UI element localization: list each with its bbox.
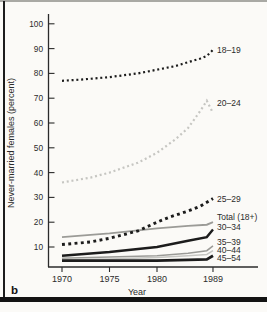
top-rule <box>0 0 267 2</box>
panel-label: b <box>11 284 18 296</box>
series-line-30-34 <box>62 230 213 256</box>
x-tick-label: 1970 <box>52 274 72 284</box>
series-label-20-24: 20–24 <box>217 98 241 108</box>
y-tick-label: 70 <box>34 93 44 103</box>
y-tick-label: 60 <box>34 118 44 128</box>
bottom-rule <box>0 297 267 302</box>
series-line-20-24 <box>62 101 213 183</box>
y-tick-label: 80 <box>34 68 44 78</box>
y-axis-title: Never-married females (percent) <box>6 78 16 208</box>
series-labels: 18–1920–2425–29Total (18+)30–3435–3940–4… <box>217 45 258 263</box>
y-tick-label: 30 <box>34 192 44 202</box>
series-line-35-39 <box>62 246 213 258</box>
series-label-30-34: 30–34 <box>217 222 241 232</box>
figure-panel-b: 102030405060708090100 1970197519801989 1… <box>0 0 267 312</box>
series-lines <box>62 50 213 261</box>
x-axis-title: Year <box>128 287 146 297</box>
never-married-line-chart: 102030405060708090100 1970197519801989 1… <box>0 0 267 312</box>
series-line-18-19 <box>62 50 213 81</box>
y-tick-label: 50 <box>34 143 44 153</box>
x-tick-label: 1989 <box>203 274 223 284</box>
y-tick-label: 10 <box>34 242 44 252</box>
x-tick-label: 1975 <box>99 274 119 284</box>
x-tick-label: 1980 <box>147 274 167 284</box>
y-tick-label: 20 <box>34 217 44 227</box>
series-label-18-19: 18–19 <box>217 45 241 55</box>
left-rule <box>3 1 5 299</box>
x-axis-ticks: 1970197519801989 <box>52 267 223 284</box>
y-tick-label: 90 <box>34 44 44 54</box>
y-tick-label: 40 <box>34 168 44 178</box>
series-label-25-29: 25–29 <box>217 194 241 204</box>
y-axis-ticks: 102030405060708090100 <box>29 19 54 252</box>
series-line-25-29 <box>62 199 213 245</box>
series-label-45-54: 45–54 <box>217 253 241 263</box>
y-tick-label: 100 <box>29 19 43 29</box>
